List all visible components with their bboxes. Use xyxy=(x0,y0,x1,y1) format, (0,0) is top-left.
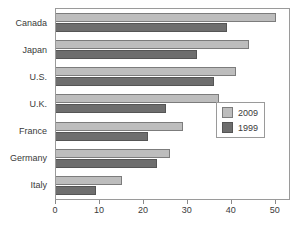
bar-2009 xyxy=(56,149,170,158)
bar-2009 xyxy=(56,176,122,185)
x-axis-tick xyxy=(231,200,232,204)
y-axis-label: Germany xyxy=(0,145,51,172)
x-axis-tick-label: 10 xyxy=(94,205,104,215)
legend-item-1999: 1999 xyxy=(222,122,258,133)
x-axis-tick xyxy=(275,200,276,204)
x-axis-tick-label: 50 xyxy=(270,205,280,215)
x-axis-tick xyxy=(99,200,100,204)
legend-swatch-icon xyxy=(222,107,233,118)
bar-2009 xyxy=(56,40,249,49)
y-axis-label: Italy xyxy=(0,172,51,199)
bar-group xyxy=(56,63,289,90)
bar-group xyxy=(56,36,289,63)
bar-2009 xyxy=(56,94,219,103)
y-axis-category-labels: Canada Japan U.S. U.K. France Germany It… xyxy=(0,9,51,199)
bar-1999 xyxy=(56,132,148,141)
x-axis: 01020304050 xyxy=(55,200,290,230)
bar-1999 xyxy=(56,159,157,168)
bar-1999 xyxy=(56,77,214,86)
x-axis-tick xyxy=(55,200,56,204)
y-axis-label: Japan xyxy=(0,36,51,63)
legend-label: 2009 xyxy=(238,108,258,118)
x-axis-tick-label: 0 xyxy=(52,205,57,215)
bar-chart: Canada Japan U.S. U.K. France Germany It… xyxy=(0,0,307,231)
x-axis-tick xyxy=(143,200,144,204)
bar-1999 xyxy=(56,186,96,195)
y-axis-label: Canada xyxy=(0,9,51,36)
bar-group xyxy=(56,172,289,199)
x-axis-tick xyxy=(187,200,188,204)
legend-item-2009: 2009 xyxy=(222,107,258,118)
bar-1999 xyxy=(56,50,197,59)
legend-label: 1999 xyxy=(238,123,258,133)
bar-2009 xyxy=(56,67,236,76)
bar-group xyxy=(56,145,289,172)
bar-2009 xyxy=(56,122,183,131)
x-axis-tick-label: 30 xyxy=(182,205,192,215)
y-axis-label: U.S. xyxy=(0,63,51,90)
legend-swatch-icon xyxy=(222,122,233,133)
y-axis-label: France xyxy=(0,118,51,145)
bar-1999 xyxy=(56,23,227,32)
legend: 2009 1999 xyxy=(216,102,265,138)
x-axis-tick-label: 20 xyxy=(138,205,148,215)
y-axis-label: U.K. xyxy=(0,90,51,117)
bar-1999 xyxy=(56,104,166,113)
bar-group xyxy=(56,9,289,36)
x-axis-tick-label: 40 xyxy=(226,205,236,215)
bar-2009 xyxy=(56,13,276,22)
